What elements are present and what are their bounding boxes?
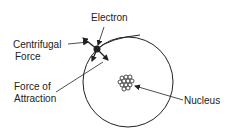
- nucleus-icon: [118, 75, 134, 91]
- centrifugal-force-arrow: [83, 38, 97, 49]
- atom-diagram: Electron Centrifugal Force Force of Attr…: [0, 0, 235, 133]
- centrifugal-label-line1: Centrifugal: [13, 39, 61, 50]
- nucleus-label: Nucleus: [184, 95, 220, 106]
- electron-label: Electron: [91, 12, 128, 23]
- attraction-label-line2: Attraction: [14, 93, 56, 104]
- attraction-label-line1: Force of: [14, 81, 51, 92]
- centrifugal-leader: [68, 42, 88, 44]
- electron-leader: [98, 27, 104, 45]
- nucleus-leader: [135, 86, 183, 100]
- attraction-force-arrow: [97, 49, 108, 60]
- attraction-leader: [56, 62, 103, 92]
- centrifugal-label-line2: Force: [15, 51, 41, 62]
